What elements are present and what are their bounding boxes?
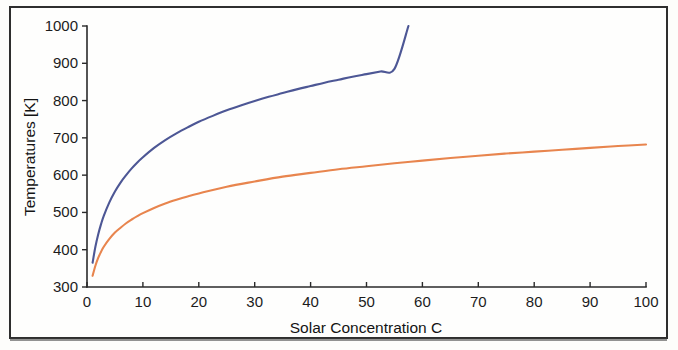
x-axis-title: Solar Concentration C <box>290 319 443 336</box>
x-tick-label-40: 40 <box>302 293 319 310</box>
upper-temperature-curve <box>93 26 409 263</box>
y-axis-title: Temperatures [K] <box>21 98 38 216</box>
y-tick-label-800: 800 <box>53 92 78 109</box>
x-tick-label-0: 0 <box>83 293 91 310</box>
x-tick-label-80: 80 <box>526 293 543 310</box>
x-tick-label-50: 50 <box>358 293 375 310</box>
plot-area: 3004005006007008009001000 01020304050607… <box>0 0 678 350</box>
x-tick-label-20: 20 <box>190 293 207 310</box>
x-tick-label-30: 30 <box>246 293 263 310</box>
x-tick-label-90: 90 <box>582 293 599 310</box>
y-tick-label-500: 500 <box>53 203 78 220</box>
figure-container: 3004005006007008009001000 01020304050607… <box>0 0 678 350</box>
x-axis-tick-labels: 0102030405060708090100 <box>83 293 659 310</box>
lower-temperature-curve <box>93 145 646 276</box>
y-tick-label-300: 300 <box>53 278 78 295</box>
y-axis-tick-labels: 3004005006007008009001000 <box>45 17 78 295</box>
y-tick-label-400: 400 <box>53 241 78 258</box>
y-tick-label-1000: 1000 <box>45 17 78 34</box>
y-tick-label-600: 600 <box>53 166 78 183</box>
line-chart: 3004005006007008009001000 01020304050607… <box>0 0 678 350</box>
data-series-group <box>93 26 646 276</box>
x-tick-label-10: 10 <box>135 293 152 310</box>
y-tick-label-900: 900 <box>53 54 78 71</box>
y-tick-label-700: 700 <box>53 129 78 146</box>
x-tick-label-60: 60 <box>414 293 431 310</box>
x-tick-label-70: 70 <box>470 293 487 310</box>
x-tick-label-100: 100 <box>633 293 658 310</box>
